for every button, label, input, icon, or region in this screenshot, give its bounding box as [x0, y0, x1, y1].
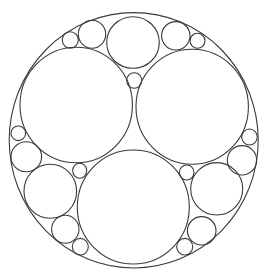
lower-left-large-circle [24, 164, 77, 218]
inner-circles [11, 17, 257, 264]
left-medium-circle [11, 142, 42, 172]
bottom-right-small-circle [177, 238, 193, 255]
top-left-medium-circle [78, 20, 105, 48]
top-right-small-circle [190, 33, 205, 48]
right-medium-circle [227, 146, 256, 175]
large-bottom-circle [77, 150, 189, 264]
large-top-right-circle [136, 49, 248, 164]
right-small-circle [242, 129, 258, 145]
lower-right-large-circle [191, 163, 243, 215]
circle-packing-diagram [0, 0, 264, 273]
left-small-circle [11, 126, 26, 141]
bottom-left-small-circle [72, 238, 88, 255]
top-right-medium-circle [162, 22, 190, 50]
bottom-right-medium-circle [187, 217, 216, 245]
diagram-canvas [0, 0, 264, 273]
outer-circle [9, 13, 258, 268]
top-medium-circle [107, 17, 160, 69]
lower-right-inner-small-circle [179, 165, 194, 180]
center-small-circle [127, 73, 142, 89]
lower-left-inner-small-circle [73, 163, 87, 178]
top-left-small-circle [62, 32, 78, 49]
bottom-left-medium-circle [52, 215, 79, 243]
